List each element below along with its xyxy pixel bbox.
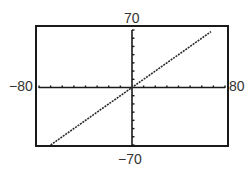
plotted-line xyxy=(51,32,211,145)
xmin-label: −80 xyxy=(9,79,33,93)
ymax-label: 70 xyxy=(124,11,140,25)
xmax-label: 80 xyxy=(229,79,245,93)
ymin-label: −70 xyxy=(118,152,142,166)
series-line xyxy=(51,32,211,145)
